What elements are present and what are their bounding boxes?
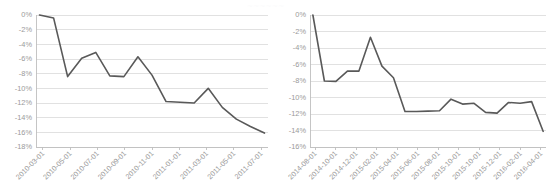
x-axis-tick-label: 2011-03-01 [178,149,210,181]
y-axis-tick-label: -2% [293,27,307,36]
y-axis-tick-label: -16% [15,128,33,137]
y-axis-tick-label: -8% [19,69,33,78]
x-axis-tick-label: 2011-01-01 [151,149,183,181]
chart-panel-right: 0%-2%-4%-6%-8%-10%-12%-14%-16%2014-08-01… [276,0,552,193]
two-chart-figure: ~~~~~~ 0%-2%-4%-6%-8%-10%-12%-14%-16%-18… [0,0,552,193]
y-axis-tick-label: -14% [289,126,307,135]
y-axis-tick-label: -4% [19,40,33,49]
x-axis-tick-label: 2011-07-01 [233,149,265,181]
y-axis-tick-label: -10% [15,84,33,93]
y-axis-tick-label: 0% [295,10,306,19]
y-axis-tick-label: -12% [289,109,307,118]
y-axis-tick-label: -18% [15,142,33,151]
line-chart-right: 0%-2%-4%-6%-8%-10%-12%-14%-16%2014-08-01… [276,0,552,193]
chart-panel-left: 0%-2%-4%-6%-8%-10%-12%-14%-16%-18%2010-0… [0,0,276,193]
y-axis-tick-label: -6% [293,60,307,69]
y-axis-tick-label: -4% [293,43,307,52]
y-axis-tick-label: -12% [15,98,33,107]
y-axis-tick-label: -14% [15,113,33,122]
y-axis-tick-label: -2% [19,25,33,34]
x-axis-tick-label: 2010-11-01 [123,149,155,181]
line-chart-left: 0%-2%-4%-6%-8%-10%-12%-14%-16%-18%2010-0… [0,0,276,193]
x-axis-tick-label: 2010-09-01 [96,149,128,181]
y-axis-tick-label: -16% [289,142,307,151]
x-axis-tick-label: 2011-05-01 [205,149,237,181]
y-axis-tick-label: -10% [289,93,307,102]
y-axis-tick-label: -8% [293,76,307,85]
y-axis-tick-label: -6% [19,54,33,63]
y-axis-tick-label: 0% [21,10,32,19]
